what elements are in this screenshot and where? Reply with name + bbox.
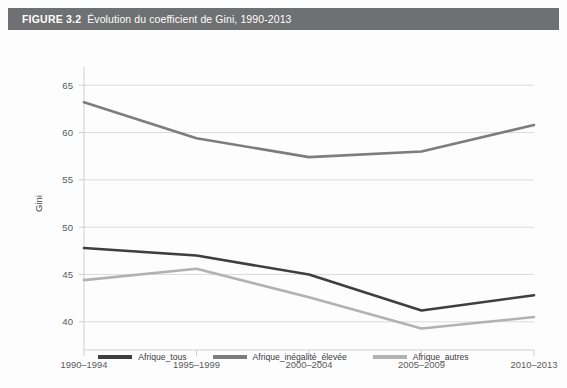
figure-header: FIGURE 3.2 Évolution du coefficient de G… <box>8 8 559 30</box>
y-axis-title: Gini <box>33 195 44 212</box>
legend-item: Afrique_inégalité_élevée <box>213 352 347 362</box>
series-line <box>84 269 534 329</box>
y-axis-tick-label: 40 <box>62 316 73 327</box>
y-axis-tick-label: 50 <box>62 222 73 233</box>
y-axis-tick-label: 65 <box>62 80 73 91</box>
legend-label: Afrique_tous <box>138 352 186 362</box>
legend-color-swatch <box>373 355 407 359</box>
series-line <box>84 102 534 157</box>
legend-label: Afrique_autres <box>413 352 469 362</box>
legend-label: Afrique_inégalité_élevée <box>253 352 347 362</box>
chart-plot-area: 404550556065 1990–19941995–19992000–2004… <box>0 34 567 388</box>
y-axis-tick-labels: 404550556065 <box>62 80 73 328</box>
y-axis-tick-label: 45 <box>62 269 73 280</box>
legend-color-swatch <box>213 355 247 359</box>
chart-legend: Afrique_tousAfrique_inégalité_élevéeAfri… <box>0 352 567 362</box>
gridlines <box>79 85 534 322</box>
line-chart: 404550556065 1990–19941995–19992000–2004… <box>0 34 567 388</box>
legend-item: Afrique_autres <box>373 352 469 362</box>
data-series-group <box>84 102 534 328</box>
legend-item: Afrique_tous <box>98 352 186 362</box>
y-axis-tick-label: 55 <box>62 174 73 185</box>
y-axis-tick-label: 60 <box>62 127 73 138</box>
figure-title: Évolution du coefficient de Gini, 1990-2… <box>87 13 291 25</box>
figure-number: FIGURE 3.2 <box>22 13 81 25</box>
series-line <box>84 248 534 310</box>
figure-container: FIGURE 3.2 Évolution du coefficient de G… <box>0 0 567 388</box>
legend-color-swatch <box>98 355 132 359</box>
axis-lines <box>84 67 534 350</box>
